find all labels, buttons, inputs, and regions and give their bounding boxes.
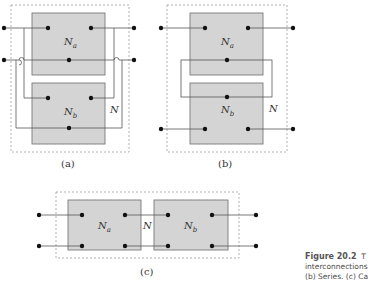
panel-label-c: (c) <box>140 266 153 277</box>
caption-line-0: T <box>361 252 366 261</box>
panel-b <box>159 5 295 152</box>
panel-label-a: (a) <box>61 158 75 169</box>
figure-caption: Figure 20.2 T interconnections (b) Serie… <box>305 252 386 282</box>
label-na-c: Na <box>98 220 111 234</box>
caption-line-2: (b) Series. (c) Ca <box>305 272 386 282</box>
diagram-canvas <box>0 0 386 288</box>
panel-a <box>2 5 136 152</box>
figure-number: Figure 20.2 <box>305 252 357 261</box>
caption-line-1: interconnections <box>305 262 386 272</box>
label-n-b: N <box>269 103 278 114</box>
label-nb-c: Nb <box>184 220 197 234</box>
label-n-c: N <box>143 220 152 231</box>
label-nb-a: Nb <box>64 106 77 120</box>
label-nb-b: Nb <box>221 104 234 118</box>
label-na-a: Na <box>64 36 77 50</box>
label-n-a: N <box>110 104 119 115</box>
label-na-b: Na <box>221 36 234 50</box>
panel-label-b: (b) <box>218 158 232 169</box>
